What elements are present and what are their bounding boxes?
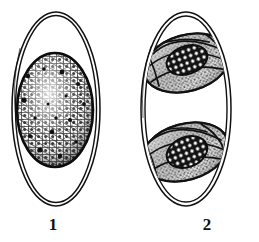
figure-1-unsporulated-oocyst	[0, 0, 130, 212]
illustration-plate: 1 2	[0, 0, 259, 242]
figure-1-drawing	[0, 0, 130, 212]
figure-2-sporulated-oocyst	[129, 0, 259, 212]
figure-2-caption: 2	[187, 212, 227, 238]
figure-2-drawing	[129, 0, 259, 212]
caption-row: 1 2	[0, 212, 259, 242]
sporont-texture-1	[18, 54, 92, 166]
figure-1-caption: 1	[33, 212, 73, 238]
lower-sporocyst	[135, 113, 235, 191]
